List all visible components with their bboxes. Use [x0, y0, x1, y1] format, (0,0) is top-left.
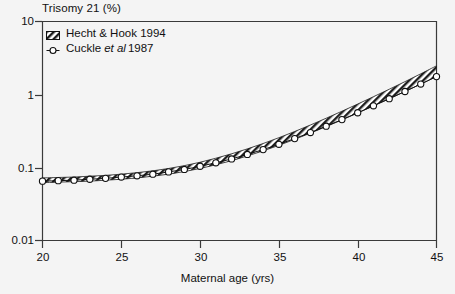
data-point-marker — [433, 73, 439, 79]
data-point-marker — [55, 178, 61, 184]
legend-label-cuckle-pre: Cuckle — [66, 41, 101, 56]
data-point-marker — [276, 141, 282, 147]
legend-label-hecht-hook: Hecht & Hook 1994 — [66, 26, 166, 41]
data-point-marker — [150, 171, 156, 177]
data-point-marker — [355, 110, 361, 116]
data-point-marker — [292, 135, 298, 141]
data-point-marker — [323, 123, 329, 129]
data-point-marker — [102, 175, 108, 181]
data-point-marker — [39, 178, 45, 184]
y-tick-label-10: 10 — [0, 16, 34, 28]
data-point-marker — [370, 103, 376, 109]
chart-legend: Hecht & Hook 1994 Cuckle et al 1987 — [46, 26, 166, 56]
x-tick-label-45: 45 — [417, 252, 455, 264]
data-point-marker — [307, 129, 313, 135]
legend-label-cuckle-italic: et al — [101, 41, 128, 56]
x-tick-label-20: 20 — [23, 252, 63, 264]
x-tick-label-35: 35 — [260, 252, 300, 264]
legend-label-cuckle-post: 1987 — [128, 41, 154, 56]
legend-label-cuckle: Cuckle et al 1987 — [66, 41, 154, 56]
data-point-marker — [260, 146, 266, 152]
data-point-marker — [118, 174, 124, 180]
data-point-marker — [181, 166, 187, 172]
x-axis-title: Maternal age (yrs) — [0, 272, 455, 284]
data-point-marker — [386, 96, 392, 102]
y-tick-label-0.1: 0.1 — [0, 163, 34, 175]
data-point-marker — [418, 81, 424, 87]
data-point-marker — [339, 117, 345, 123]
data-point-marker — [213, 160, 219, 166]
x-tick-label-30: 30 — [181, 252, 221, 264]
hatched-swatch-icon — [46, 29, 60, 38]
y-tick-label-0.01: 0.01 — [0, 235, 34, 247]
legend-item-cuckle: Cuckle et al 1987 — [46, 41, 166, 56]
x-tick-label-40: 40 — [339, 252, 379, 264]
y-tick-label-1: 1 — [0, 90, 34, 102]
data-point-marker — [229, 156, 235, 162]
open-circle-icon — [46, 44, 60, 53]
chart-title: Trisomy 21 (%) — [42, 2, 121, 14]
data-point-marker — [134, 173, 140, 179]
data-point-marker — [197, 163, 203, 169]
data-point-marker — [165, 169, 171, 175]
legend-item-hecht-hook: Hecht & Hook 1994 — [46, 26, 166, 41]
data-point-marker — [71, 177, 77, 183]
data-point-marker — [87, 176, 93, 182]
x-tick-label-25: 25 — [102, 252, 142, 264]
data-point-marker — [402, 88, 408, 94]
data-point-marker — [244, 151, 250, 157]
